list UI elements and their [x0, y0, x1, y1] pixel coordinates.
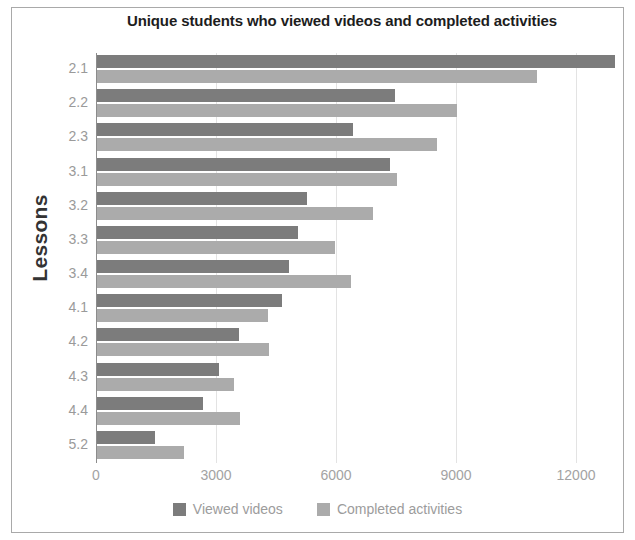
- x-tick-label: 6000: [320, 467, 351, 483]
- bar-viewed-videos: [97, 158, 390, 171]
- y-tick-label: 5.2: [69, 436, 88, 452]
- plot-area: 2.12.22.33.13.23.33.44.14.24.34.45.2 030…: [96, 53, 626, 463]
- bar-completed-activities: [97, 138, 437, 151]
- bar-viewed-videos: [97, 226, 298, 239]
- x-tick-label: 9000: [440, 467, 471, 483]
- y-tick-label: 3.1: [69, 163, 88, 179]
- bar-viewed-videos: [97, 328, 239, 341]
- y-tick-label: 4.1: [69, 299, 88, 315]
- bar-viewed-videos: [97, 397, 203, 410]
- bar-row: 2.1: [97, 55, 626, 89]
- chart-legend: Viewed videosCompleted activities: [12, 501, 623, 517]
- legend-item[interactable]: Viewed videos: [173, 501, 283, 517]
- y-tick-label: 4.4: [69, 402, 88, 418]
- y-tick-label: 2.1: [69, 60, 88, 76]
- chart-container: Unique students who viewed videos and co…: [11, 7, 624, 533]
- bar-viewed-videos: [97, 363, 219, 376]
- bar-completed-activities: [97, 207, 373, 220]
- y-tick-label: 3.4: [69, 265, 88, 281]
- bar-viewed-videos: [97, 123, 353, 136]
- bar-row: 4.1: [97, 294, 626, 328]
- x-tick-label: 12000: [557, 467, 596, 483]
- y-tick-label: 3.3: [69, 231, 88, 247]
- bar-completed-activities: [97, 173, 397, 186]
- bar-row: 3.2: [97, 192, 626, 226]
- bar-row: 3.4: [97, 260, 626, 294]
- y-tick-label: 2.3: [69, 128, 88, 144]
- bar-viewed-videos: [97, 192, 307, 205]
- bar-completed-activities: [97, 343, 269, 356]
- y-tick-label: 4.2: [69, 333, 88, 349]
- bar-viewed-videos: [97, 55, 615, 68]
- y-tick-label: 2.2: [69, 94, 88, 110]
- bar-completed-activities: [97, 309, 268, 322]
- bar-row: 5.2: [97, 431, 626, 465]
- legend-swatch-icon: [317, 503, 330, 516]
- legend-label: Completed activities: [337, 501, 462, 517]
- bar-row: 2.3: [97, 123, 626, 157]
- bar-row: 2.2: [97, 89, 626, 123]
- x-tick-label: 3000: [200, 467, 231, 483]
- x-tick-label: 0: [92, 467, 100, 483]
- y-axis-title: Lessons: [28, 188, 52, 288]
- y-tick-label: 3.2: [69, 197, 88, 213]
- legend-item[interactable]: Completed activities: [317, 501, 462, 517]
- legend-swatch-icon: [173, 503, 186, 516]
- bar-row: 3.1: [97, 158, 626, 192]
- bar-completed-activities: [97, 275, 351, 288]
- y-tick-label: 4.3: [69, 368, 88, 384]
- bar-row: 3.3: [97, 226, 626, 260]
- bar-viewed-videos: [97, 89, 395, 102]
- bar-completed-activities: [97, 412, 240, 425]
- bar-row: 4.3: [97, 363, 626, 397]
- bar-viewed-videos: [97, 260, 289, 273]
- bar-row: 4.4: [97, 397, 626, 431]
- bar-completed-activities: [97, 446, 184, 459]
- bar-completed-activities: [97, 70, 537, 83]
- bar-completed-activities: [97, 241, 335, 254]
- chart-title: Unique students who viewed videos and co…: [72, 12, 612, 29]
- legend-label: Viewed videos: [193, 501, 283, 517]
- bar-viewed-videos: [97, 431, 155, 444]
- bar-completed-activities: [97, 104, 457, 117]
- bar-viewed-videos: [97, 294, 282, 307]
- bar-row: 4.2: [97, 328, 626, 362]
- bar-completed-activities: [97, 378, 234, 391]
